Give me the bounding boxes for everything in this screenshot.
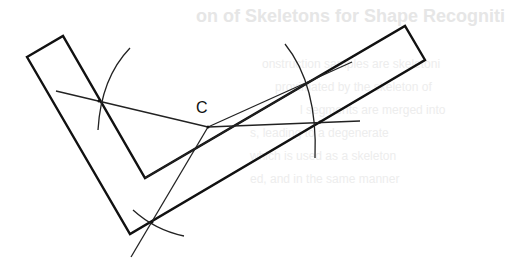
intersection-point (98, 100, 101, 103)
construction-line (131, 127, 208, 257)
construction-line (56, 91, 208, 127)
construction-arc (133, 210, 184, 236)
construction-line (208, 62, 352, 127)
intersection-point (151, 221, 154, 224)
point-c-label: C (196, 99, 208, 117)
construction-line (208, 121, 360, 127)
point-c (207, 126, 210, 129)
intersection-point (319, 121, 322, 124)
construction-line (145, 73, 325, 178)
construction-arc (98, 48, 130, 130)
